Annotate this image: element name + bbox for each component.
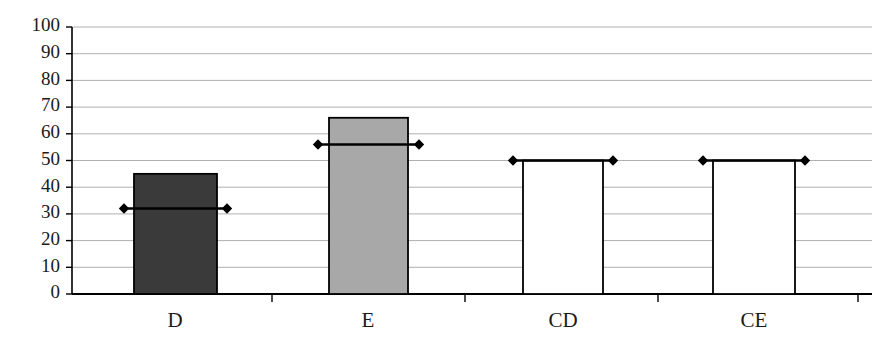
x-tick-label-cd: CD <box>548 308 577 332</box>
y-tick-label: 100 <box>32 14 61 35</box>
y-tick-label: 60 <box>41 121 60 142</box>
chart-svg: 0102030405060708090100 DECDCE <box>0 0 881 351</box>
y-tick-label: 90 <box>41 41 60 62</box>
bar-d <box>134 174 217 294</box>
y-tick-label: 40 <box>41 175 60 196</box>
y-tick-label: 20 <box>41 228 60 249</box>
bar-chart: 0102030405060708090100 DECDCE <box>0 0 881 351</box>
y-tick-label: 0 <box>51 281 61 302</box>
y-tick-label: 70 <box>41 94 60 115</box>
x-tick-label-ce: CE <box>741 308 768 332</box>
bar-cd <box>523 161 603 295</box>
y-tick-label: 80 <box>41 68 60 89</box>
y-tick-labels: 0102030405060708090100 <box>32 14 61 302</box>
x-tick-label-d: D <box>167 308 182 332</box>
y-tick-label: 10 <box>41 255 60 276</box>
x-tick-label-e: E <box>362 308 375 332</box>
y-tick-label: 30 <box>41 201 60 222</box>
y-tick-label: 50 <box>41 148 60 169</box>
x-tick-marks <box>272 294 858 302</box>
bar-ce <box>713 161 795 295</box>
x-tick-labels: DECDCE <box>167 308 767 332</box>
y-tick-marks <box>66 27 72 294</box>
